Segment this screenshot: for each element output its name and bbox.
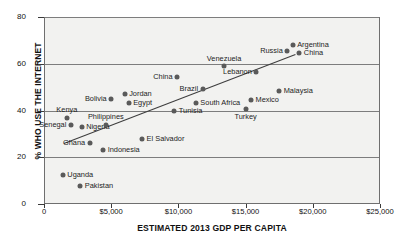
- y-tick-mark-20: [38, 157, 44, 158]
- scatter-chart: % WHO USE THE INTERNET ESTIMATED 2013 GD…: [0, 0, 410, 240]
- data-point-label: Malaysia: [284, 87, 313, 94]
- gridline-y-60: [45, 64, 379, 65]
- data-point-label: Mexico: [255, 96, 278, 103]
- data-point: [243, 107, 248, 112]
- data-point-label: Philippines: [88, 113, 124, 120]
- x-tick-label-20000: $20,000: [299, 207, 326, 216]
- data-point-label: Brazil: [180, 86, 198, 93]
- x-tick-label-0: 0: [42, 207, 46, 216]
- x-tick-label-5000: $5,000: [100, 207, 123, 216]
- data-point: [109, 96, 114, 101]
- x-tick-mark-10000: [178, 204, 179, 208]
- data-point-label: Senegal: [39, 121, 66, 128]
- data-point-label: Kenya: [56, 106, 77, 113]
- data-point: [248, 97, 253, 102]
- data-point: [103, 122, 108, 127]
- data-point-label: South Africa: [200, 100, 240, 107]
- data-point-label: Russia: [260, 47, 283, 54]
- y-axis-title: % WHO USE THE INTERNET: [33, 16, 43, 186]
- data-point-label: Indonesia: [108, 147, 140, 154]
- y-tick-label-40: 40: [4, 106, 26, 115]
- data-point: [68, 122, 73, 127]
- y-tick-label-80: 80: [4, 12, 26, 21]
- data-point: [87, 141, 92, 146]
- data-point-label: Venezuela: [207, 54, 242, 61]
- y-tick-mark-40: [38, 111, 44, 112]
- x-tick-mark-5000: [111, 204, 112, 208]
- data-point: [254, 69, 259, 74]
- y-tick-label-20: 20: [4, 152, 26, 161]
- data-point: [175, 74, 180, 79]
- data-point-label: Turkey: [234, 113, 256, 120]
- data-point: [122, 92, 127, 97]
- data-point-label: Tunisia: [179, 107, 203, 114]
- data-point: [60, 172, 65, 177]
- data-point: [126, 101, 131, 106]
- data-point: [172, 108, 177, 113]
- data-point: [140, 136, 145, 141]
- gridline-y-80: [45, 17, 379, 18]
- plot-area: [44, 17, 380, 204]
- data-point-label: Uganda: [67, 171, 93, 178]
- y-tick-mark-60: [38, 64, 44, 65]
- data-point-label: Jordan: [129, 90, 152, 97]
- data-point-label: China: [153, 73, 172, 80]
- x-axis-title: ESTIMATED 2013 GDP PER CAPITA: [44, 223, 380, 233]
- data-point: [78, 184, 83, 189]
- data-point: [277, 88, 282, 93]
- data-point-label: Pakistan: [85, 183, 113, 190]
- x-tick-label-10000: $10,000: [165, 207, 192, 216]
- data-point: [290, 43, 295, 48]
- data-point: [285, 48, 290, 53]
- x-tick-label-25000: $25,000: [366, 207, 393, 216]
- data-point: [297, 51, 302, 56]
- data-point-label: El Salvador: [147, 135, 185, 142]
- gridline-y-20: [45, 157, 379, 158]
- data-point-label: China: [304, 50, 323, 57]
- data-point: [79, 124, 84, 129]
- y-tick-label-60: 60: [4, 59, 26, 68]
- x-tick-mark-25000: [380, 204, 381, 208]
- data-point: [193, 101, 198, 106]
- x-tick-mark-20000: [313, 204, 314, 208]
- y-tick-label-0: 0: [4, 199, 26, 208]
- data-point: [101, 148, 106, 153]
- data-point-label: Ghana: [63, 140, 85, 147]
- data-point-label: Bolivia: [85, 95, 107, 102]
- data-point-label: Egypt: [133, 100, 152, 107]
- y-tick-mark-80: [38, 17, 44, 18]
- x-tick-mark-15000: [246, 204, 247, 208]
- x-tick-mark-0: [44, 204, 45, 208]
- data-point-label: Lebanon: [223, 68, 252, 75]
- x-tick-label-15000: $15,000: [232, 207, 259, 216]
- data-point: [200, 87, 205, 92]
